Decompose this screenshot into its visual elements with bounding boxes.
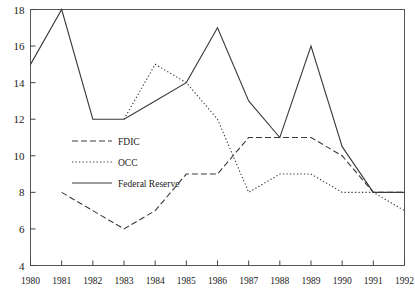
y-axis-tick-label: 6 bbox=[19, 223, 25, 235]
x-axis-labels: 1980198119821983198419851986198719881989… bbox=[21, 276, 414, 286]
y-axis-ticks bbox=[31, 10, 36, 266]
x-axis-tick-label: 1987 bbox=[239, 276, 258, 286]
plot-frame-group bbox=[31, 10, 405, 266]
x-axis-tick-label: 1981 bbox=[52, 276, 71, 286]
y-axis-tick-label: 8 bbox=[19, 186, 25, 198]
x-axis-tick-label: 1983 bbox=[115, 276, 134, 286]
x-axis-tick-label: 1990 bbox=[333, 276, 352, 286]
y-axis-tick-label: 4 bbox=[19, 260, 25, 272]
legend-label-federal-reserve: Federal Reserve bbox=[118, 179, 179, 189]
line-chart: 4681012141618 19801981198219831984198519… bbox=[0, 0, 415, 303]
y-axis-tick-label: 16 bbox=[14, 40, 26, 52]
data-series-group bbox=[31, 10, 405, 229]
x-axis-tick-label: 1992 bbox=[395, 276, 414, 286]
y-axis-tick-label: 14 bbox=[14, 77, 26, 89]
y-axis-tick-label: 18 bbox=[14, 4, 26, 16]
chart-canvas: 4681012141618 19801981198219831984198519… bbox=[0, 0, 415, 303]
series-line-federal-reserve bbox=[31, 10, 405, 193]
x-axis-tick-label: 1991 bbox=[364, 276, 383, 286]
x-axis-ticks bbox=[31, 261, 405, 266]
legend-label-occ: OCC bbox=[118, 158, 138, 168]
series-line-occ bbox=[124, 64, 405, 210]
x-axis-tick-label: 1984 bbox=[146, 276, 165, 286]
series-line-fdic bbox=[62, 138, 405, 229]
x-axis-tick-label: 1986 bbox=[208, 276, 227, 286]
y-axis-labels: 4681012141618 bbox=[14, 4, 26, 272]
plot-frame bbox=[31, 10, 405, 266]
y-axis-tick-label: 10 bbox=[14, 150, 26, 162]
chart-legend: FDICOCCFederal Reserve bbox=[72, 137, 179, 189]
y-axis-tick-label: 12 bbox=[14, 113, 25, 125]
x-axis-tick-label: 1985 bbox=[177, 276, 196, 286]
x-axis-tick-label: 1980 bbox=[21, 276, 40, 286]
x-axis-tick-label: 1982 bbox=[83, 276, 102, 286]
legend-label-fdic: FDIC bbox=[118, 137, 140, 147]
x-axis-tick-label: 1988 bbox=[270, 276, 289, 286]
x-axis-tick-label: 1989 bbox=[302, 276, 321, 286]
